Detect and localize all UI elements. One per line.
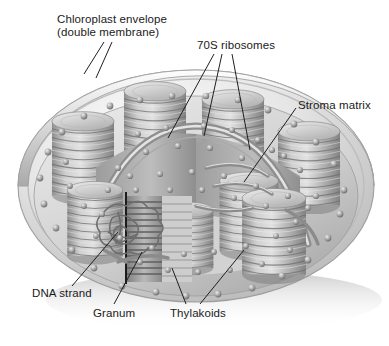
label-chloroplast-envelope: Chloroplast envelope (double membrane) — [57, 13, 167, 39]
leader-envelope-2 — [96, 42, 112, 78]
label-line-1: Granum — [93, 307, 135, 320]
label-ribosomes-70s: 70S ribosomes — [197, 39, 275, 52]
label-line-1: Chloroplast envelope — [57, 13, 167, 26]
label-thylakoids: Thylakoids — [170, 307, 226, 320]
label-line-1: Stroma matrix — [298, 99, 371, 112]
label-dna-strand: DNA strand — [32, 287, 92, 300]
granum-cut-section — [126, 192, 192, 284]
leader-envelope — [84, 42, 104, 74]
label-granum: Granum — [93, 307, 135, 320]
label-stroma-matrix: Stroma matrix — [298, 99, 371, 112]
label-line-1: Thylakoids — [170, 307, 226, 320]
label-line-2: (double membrane) — [57, 26, 167, 39]
label-line-1: 70S ribosomes — [197, 39, 275, 52]
chloroplast-figure: Chloroplast envelope (double membrane) 7… — [0, 0, 389, 346]
label-line-1: DNA strand — [32, 287, 92, 300]
